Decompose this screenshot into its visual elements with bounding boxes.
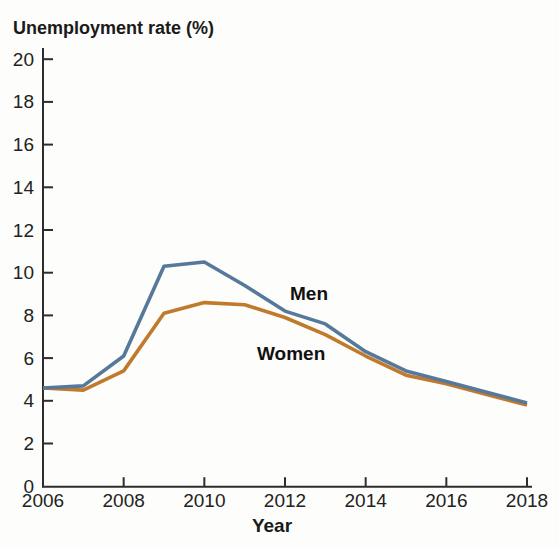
chart-figure: Unemployment rate (%) 024681012141618202… (0, 0, 559, 547)
x-tick-label: 2016 (425, 490, 467, 511)
x-tick-label: 2006 (22, 490, 64, 511)
line-chart: Unemployment rate (%) 024681012141618202… (0, 0, 559, 547)
y-tick-label: 16 (13, 134, 34, 155)
y-tick-label: 8 (23, 305, 34, 326)
x-tick-label: 2018 (506, 490, 548, 511)
y-tick-label: 14 (13, 177, 35, 198)
axes: 0246810121416182020062008201020122014201… (13, 48, 548, 511)
y-tick-label: 20 (13, 49, 34, 70)
chart-title: Unemployment rate (%) (13, 18, 214, 38)
series-line-men (43, 262, 527, 403)
series-lines: MenWomen (43, 262, 527, 405)
y-tick-label: 6 (23, 348, 34, 369)
series-label-women: Women (257, 343, 325, 364)
x-axis-title: Year (252, 515, 293, 536)
x-tick-label: 2014 (345, 490, 388, 511)
y-tick-label: 4 (23, 390, 34, 411)
x-tick-label: 2008 (103, 490, 145, 511)
series-label-men: Men (290, 283, 328, 304)
y-tick-label: 12 (13, 220, 34, 241)
y-tick-label: 10 (13, 262, 34, 283)
x-tick-label: 2012 (264, 490, 306, 511)
y-tick-label: 2 (23, 433, 34, 454)
x-tick-label: 2010 (183, 490, 225, 511)
y-tick-label: 18 (13, 91, 34, 112)
